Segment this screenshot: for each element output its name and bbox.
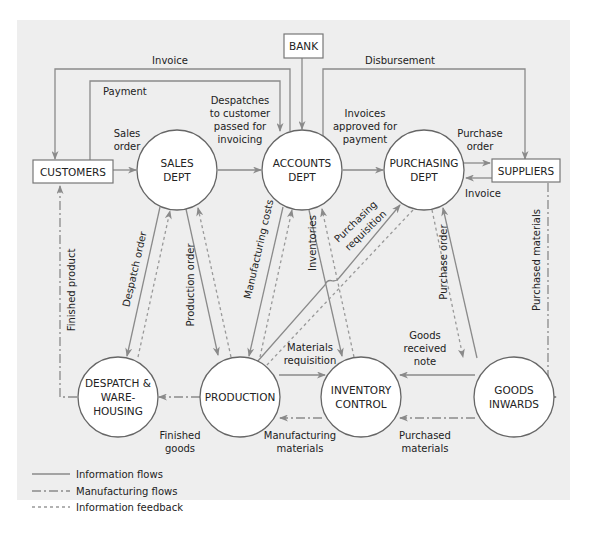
flow-label-disbursement: Disbursement — [365, 55, 435, 66]
flow-label-invoices-approved-3: payment — [343, 134, 388, 145]
process-despatch-warehousing: DESPATCH & WARE- HOUSING — [78, 357, 158, 437]
process-despatch-label-1: DESPATCH & — [85, 377, 151, 389]
flow-label-purchased-materials-bottom-1: Purchased — [399, 430, 451, 441]
flow-label-finished-goods-2: goods — [165, 443, 195, 454]
flow-label-goods-received-3: note — [414, 356, 437, 367]
process-production: PRODUCTION — [200, 357, 280, 437]
process-accounts-label-2: DEPT — [288, 171, 316, 183]
flow-label-payment: Payment — [103, 86, 147, 97]
process-accounts-dept: ACCOUNTS DEPT — [262, 130, 342, 210]
process-sales-dept: SALES DEPT — [137, 130, 217, 210]
flow-label-purchase-order-mid: Purchase order — [438, 223, 449, 299]
flow-label-despatches-3: passed for — [214, 121, 267, 132]
flow-label-manufacturing-materials-1: Manufacturing — [264, 430, 336, 441]
flow-label-sales-order-2: order — [114, 141, 142, 152]
process-purchasing-dept: PURCHASING DEPT — [384, 130, 464, 210]
entity-suppliers: SUPPLIERS — [492, 159, 560, 182]
entity-bank-label: BANK — [289, 40, 319, 52]
process-accounts-label-1: ACCOUNTS — [273, 157, 332, 169]
entity-bank: BANK — [284, 34, 323, 58]
process-goods-inwards-label-2: INWARDS — [489, 398, 539, 410]
flow-label-despatches-4: invoicing — [218, 134, 263, 145]
process-purchasing-label-2: DEPT — [410, 171, 438, 183]
legend-label-manufacturing-flows: Manufacturing flows — [76, 486, 177, 497]
flow-label-materials-requisition-1: Materials — [287, 342, 333, 353]
legend-label-information-feedback: Information feedback — [76, 502, 183, 513]
legend-label-information-flows: Information flows — [76, 469, 163, 480]
flow-label-goods-received-2: received — [404, 343, 447, 354]
flow-label-purchase-order-right-1: Purchase — [457, 128, 502, 139]
process-inventory-label-1: INVENTORY — [331, 384, 392, 396]
process-sales-label-1: SALES — [160, 157, 194, 169]
data-flow-diagram: Invoice Payment Disbursement Sales order… — [0, 0, 593, 543]
entity-suppliers-label: SUPPLIERS — [498, 165, 555, 177]
flow-label-despatches-1: Despatches — [211, 95, 270, 106]
process-sales-label-2: DEPT — [163, 171, 191, 183]
flow-label-inventories: Inventories — [307, 215, 318, 271]
process-inventory-control: INVENTORY CONTROL — [321, 357, 401, 437]
process-despatch-label-3: HOUSING — [93, 405, 143, 417]
flow-label-finished-product: Finished product — [66, 249, 77, 332]
flow-label-production-order: Production order — [185, 243, 196, 327]
flow-label-goods-received-1: Goods — [409, 330, 441, 341]
process-purchasing-label-1: PURCHASING — [390, 157, 459, 169]
flow-label-purchased-materials-vertical: Purchased materials — [531, 209, 542, 311]
process-inventory-label-2: CONTROL — [335, 398, 386, 410]
process-production-label: PRODUCTION — [205, 391, 276, 403]
flow-label-purchased-materials-bottom-2: materials — [402, 443, 449, 454]
flow-label-invoices-approved-1: Invoices — [345, 108, 386, 119]
process-goods-inwards-label-1: GOODS — [494, 384, 534, 396]
flow-label-sales-order-1: Sales — [114, 128, 141, 139]
flow-label-manufacturing-materials-2: materials — [277, 443, 324, 454]
flow-label-invoice-right: Invoice — [465, 188, 501, 199]
process-goods-inwards: GOODS INWARDS — [474, 357, 554, 437]
flow-label-despatches-2: to customer — [210, 108, 271, 119]
flow-label-finished-goods-1: Finished — [160, 430, 201, 441]
flow-label-invoices-approved-2: approved for — [333, 121, 398, 132]
flow-label-invoice-top: Invoice — [152, 55, 188, 66]
entity-customers: CUSTOMERS — [33, 160, 113, 183]
flow-label-materials-requisition-2: requisition — [284, 355, 337, 366]
entity-customers-label: CUSTOMERS — [40, 166, 106, 178]
process-despatch-label-2: WARE- — [101, 391, 136, 403]
flow-label-purchase-order-right-2: order — [467, 141, 495, 152]
